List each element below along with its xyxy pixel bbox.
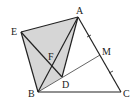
label-f: F bbox=[48, 51, 54, 62]
label-m: M bbox=[102, 46, 111, 57]
label-d: D bbox=[62, 79, 69, 90]
label-a: A bbox=[76, 5, 84, 16]
label-e: E bbox=[11, 26, 17, 37]
segment-ac bbox=[78, 17, 121, 92]
label-c: C bbox=[123, 88, 130, 99]
geometry-diagram: A E B C M D F bbox=[0, 0, 136, 102]
label-b: B bbox=[28, 88, 35, 99]
